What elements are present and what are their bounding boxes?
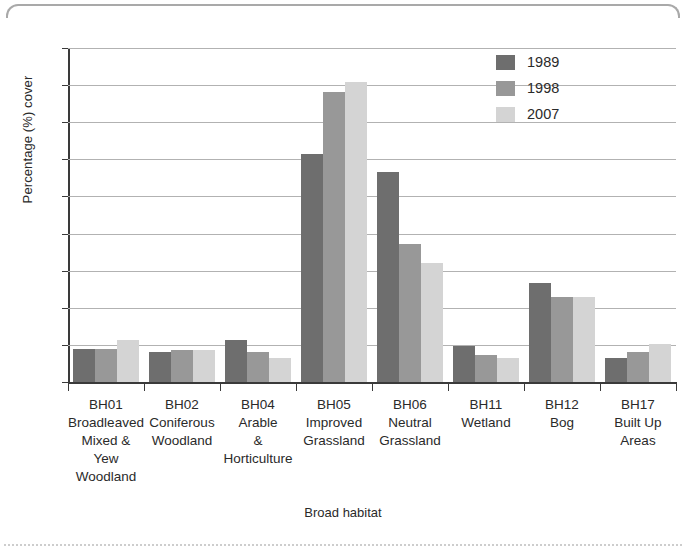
legend-label-2007: 2007	[527, 106, 559, 122]
category-label-BH12: BH12 Bog	[524, 396, 600, 432]
bar-BH17-1989	[605, 358, 627, 382]
category-label-BH06: BH06 Neutral Grassland	[372, 396, 448, 450]
bar-group-BH04	[220, 48, 296, 382]
x-axis-title: Broad habitat	[0, 505, 686, 520]
bar-BH17-1998	[627, 352, 649, 382]
x-tick-3	[296, 382, 297, 391]
category-label-BH05: BH05 Improved Grassland	[296, 396, 372, 450]
bar-BH12-1998	[551, 297, 573, 382]
legend-swatch-1989	[496, 55, 515, 70]
bar-BH04-1989	[225, 340, 247, 382]
bar-BH11-2007	[497, 358, 519, 382]
x-tick-end	[676, 382, 677, 391]
x-tick-4	[372, 382, 373, 391]
bar-BH05-1998	[323, 92, 345, 382]
bar-group-BH05	[296, 48, 372, 382]
bar-BH06-1998	[399, 244, 421, 382]
bar-BH17-2007	[649, 344, 671, 382]
category-label-BH17: BH17 Built Up Areas	[600, 396, 676, 450]
bar-group-BH17	[600, 48, 676, 382]
bar-BH04-1998	[247, 352, 269, 382]
bar-chart: Percentage (%) cover Broad habitat 05101…	[0, 0, 686, 548]
bar-BH12-1989	[529, 283, 551, 382]
category-label-BH02: BH02 Coniferous Woodland	[144, 396, 220, 450]
bar-BH04-2007	[269, 358, 291, 382]
bar-BH12-2007	[573, 297, 595, 382]
bar-BH01-1998	[95, 349, 117, 382]
x-tick-2	[220, 382, 221, 391]
x-tick-5	[448, 382, 449, 391]
legend-label-1989: 1989	[527, 54, 559, 70]
y-axis-title: Percentage (%) cover	[20, 45, 35, 235]
bar-BH02-1989	[149, 352, 171, 382]
x-tick-1	[144, 382, 145, 391]
legend-item-1998: 1998	[496, 78, 559, 98]
bar-BH02-2007	[193, 350, 215, 382]
plot-inner	[68, 48, 676, 382]
legend-item-1989: 1989	[496, 52, 559, 72]
legend-swatch-1998	[496, 81, 515, 96]
x-tick-0	[68, 382, 69, 391]
x-tick-7	[600, 382, 601, 391]
bar-BH01-2007	[117, 340, 139, 382]
category-label-BH11: BH11 Wetland	[448, 396, 524, 432]
category-label-BH04: BH04 Arable & Horticulture	[220, 396, 296, 468]
bar-group-BH01	[68, 48, 144, 382]
x-tick-6	[524, 382, 525, 391]
legend-label-1998: 1998	[527, 80, 559, 96]
bar-BH11-1998	[475, 355, 497, 382]
bar-BH02-1998	[171, 350, 193, 382]
bar-BH05-1989	[301, 154, 323, 382]
category-label-BH01: BH01 Broadleaved Mixed & Yew Woodland	[68, 396, 144, 486]
legend-swatch-2007	[496, 107, 515, 122]
bar-group-BH02	[144, 48, 220, 382]
bar-BH01-1989	[73, 349, 95, 382]
bar-BH11-1989	[453, 346, 475, 382]
legend-item-2007: 2007	[496, 104, 559, 124]
plot-area	[68, 48, 676, 382]
bar-BH05-2007	[345, 82, 367, 382]
bar-BH06-1989	[377, 172, 399, 382]
bar-BH06-2007	[421, 263, 443, 382]
bar-group-BH06	[372, 48, 448, 382]
legend: 198919982007	[496, 52, 559, 124]
